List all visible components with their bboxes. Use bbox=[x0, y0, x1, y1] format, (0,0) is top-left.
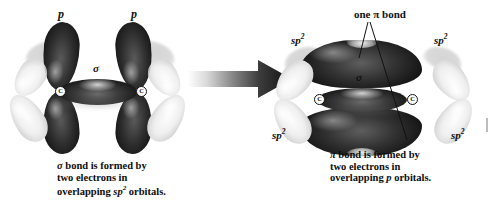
drop-shadow-right bbox=[309, 105, 417, 117]
pi-cloud-upper-waist bbox=[347, 36, 377, 48]
carbon-atom-left: C bbox=[55, 86, 66, 97]
left-caption-sp-italic: sp bbox=[113, 186, 122, 197]
right-caption-line-3: overlapping p orbitals. bbox=[330, 172, 431, 184]
sigma-label-left-diagram: σ bbox=[93, 63, 99, 74]
right-caption-line-2: two electrons in bbox=[330, 161, 431, 173]
sp2-label-bottom-right-base: sp bbox=[451, 129, 461, 141]
sp2-orbital-lower-right-right-diagram bbox=[428, 92, 481, 150]
scan-edge-mark bbox=[486, 118, 488, 132]
pi-bond-callout-label: one π bond bbox=[354, 9, 406, 20]
sp2-label-bottom-left: sp2 bbox=[272, 128, 286, 141]
sp2-label-bottom-left-base: sp bbox=[272, 129, 282, 141]
right-caption-line-1: π bond is formed by bbox=[330, 149, 431, 161]
carbon-atom-right-right-diagram: C bbox=[407, 94, 418, 105]
p-orbital-label-left: p bbox=[58, 8, 64, 20]
figure-canvas: C C p p σ σ bond is formed by two electr… bbox=[0, 0, 491, 201]
sp2-label-bottom-right: sp2 bbox=[451, 128, 465, 141]
carbon-atom-left-right-diagram: C bbox=[314, 94, 325, 105]
sp2-label-top-left-sup: 2 bbox=[301, 32, 305, 41]
left-caption-line-1-rest: bond is formed by bbox=[63, 160, 147, 171]
left-caption-line-3: overlapping sp2 orbitals. bbox=[57, 183, 166, 197]
sp2-label-bottom-right-sup: 2 bbox=[461, 127, 465, 136]
right-caption-line-3-prefix: overlapping bbox=[330, 172, 386, 183]
p-orbital-label-right: p bbox=[131, 8, 137, 20]
left-caption-line-2: two electrons in bbox=[57, 172, 166, 184]
carbon-atom-right: C bbox=[136, 86, 147, 97]
right-caption-line-3-suffix: orbitals. bbox=[392, 172, 432, 183]
sp2-label-top-right-sup: 2 bbox=[444, 32, 448, 41]
right-caption-line-1-rest: bond is formed by bbox=[336, 149, 420, 160]
sp2-label-top-left: sp2 bbox=[291, 33, 305, 46]
sp2-label-top-left-base: sp bbox=[291, 34, 301, 46]
sigma-label-right-diagram: σ bbox=[356, 72, 362, 83]
left-caption-line-3-prefix: overlapping bbox=[57, 186, 113, 197]
right-caption: π bond is formed by two electrons in ove… bbox=[330, 149, 431, 184]
left-caption: σ bond is formed by two electrons in ove… bbox=[57, 160, 166, 197]
drop-shadow-left bbox=[50, 98, 146, 110]
left-caption-line-1: σ bond is formed by bbox=[57, 160, 166, 172]
sp2-label-top-right: sp2 bbox=[434, 33, 448, 46]
sp2-label-bottom-left-sup: 2 bbox=[282, 127, 286, 136]
left-caption-line-3-suffix: orbitals. bbox=[126, 186, 166, 197]
sp2-label-top-right-base: sp bbox=[434, 34, 444, 46]
